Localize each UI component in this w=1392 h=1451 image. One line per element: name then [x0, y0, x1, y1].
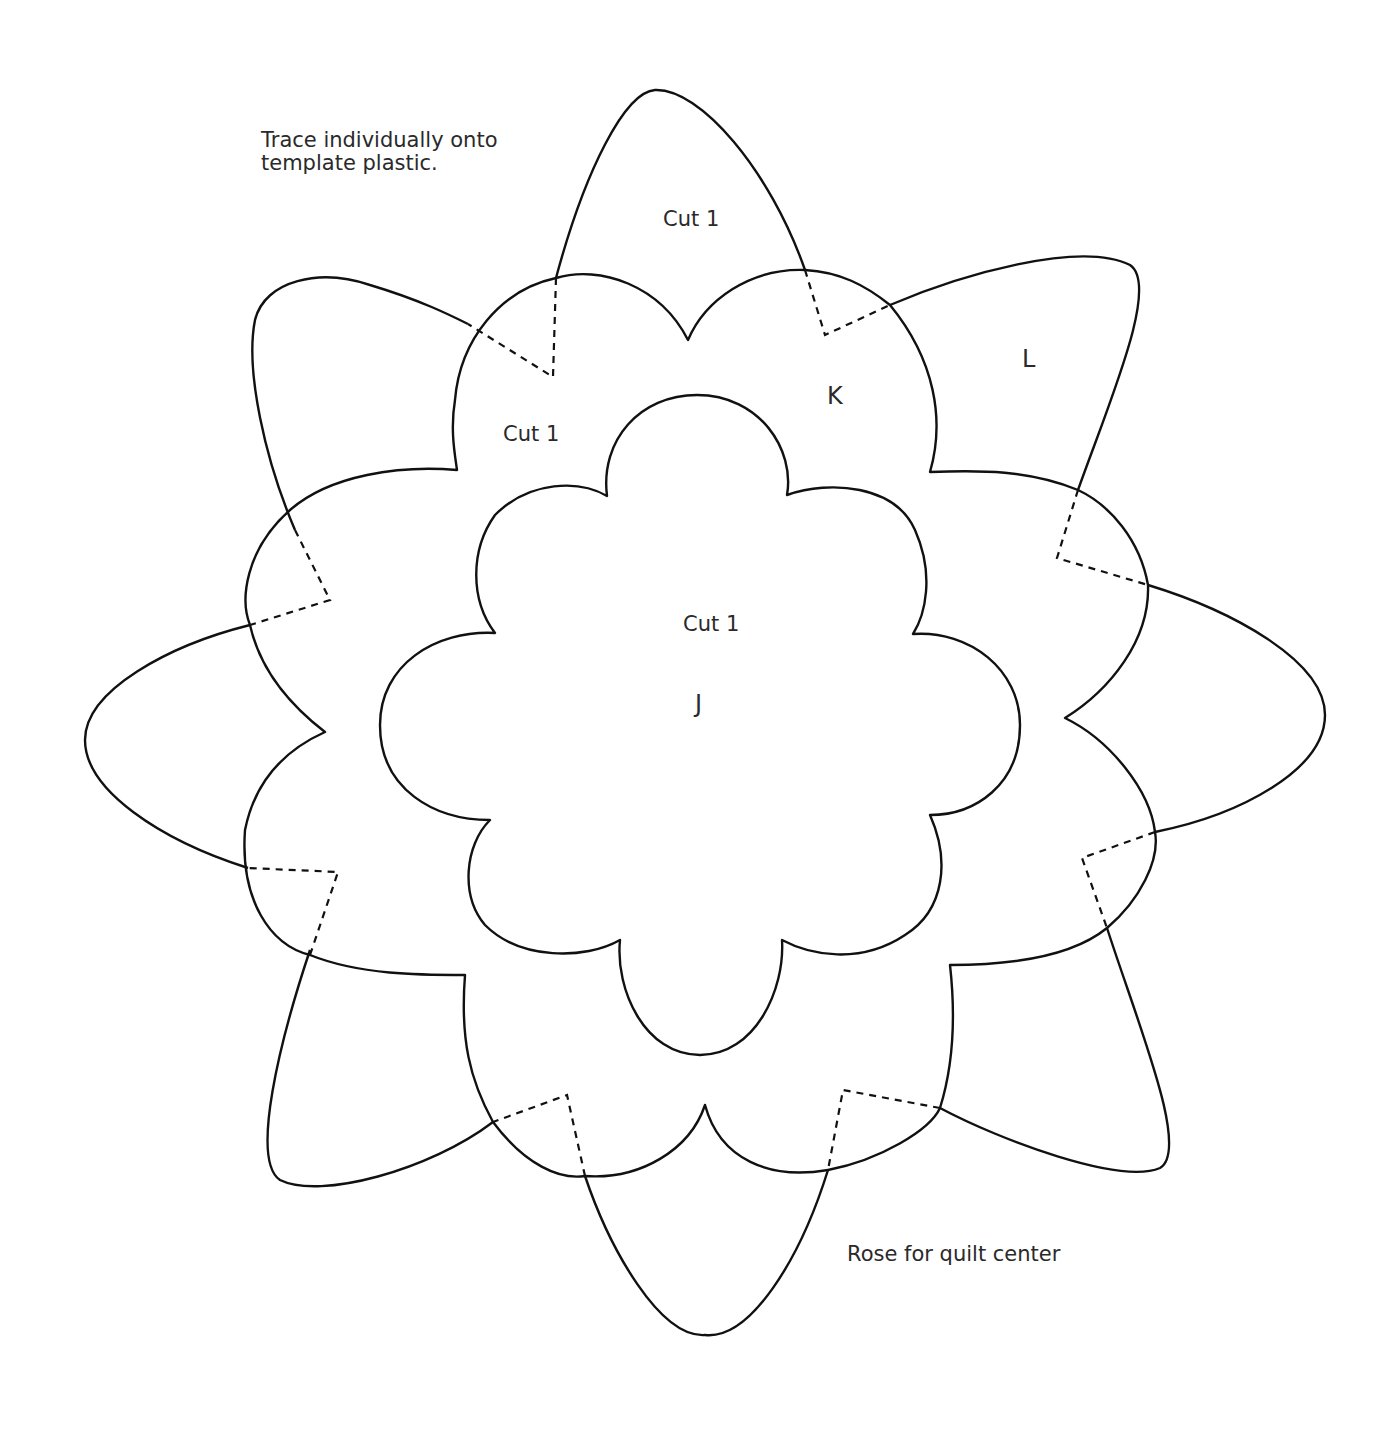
piece-j-letter: J: [695, 690, 702, 718]
piece-j-cut-label: Cut 1: [683, 612, 739, 636]
piece-l-cut-label: Cut 1: [663, 207, 719, 231]
instructions-text: Trace individually onto template plastic…: [261, 129, 497, 175]
caption-text: Rose for quilt center: [847, 1243, 1060, 1266]
piece-l-letter: L: [1022, 345, 1035, 373]
instructions-line-1: Trace individually onto: [261, 129, 497, 152]
piece-j-outline: [380, 395, 1020, 1055]
piece-k-letter: K: [827, 382, 843, 410]
piece-l-outline: [85, 90, 1325, 1335]
piece-k-cut-label: Cut 1: [503, 422, 559, 446]
instructions-line-2: template plastic.: [261, 152, 497, 175]
